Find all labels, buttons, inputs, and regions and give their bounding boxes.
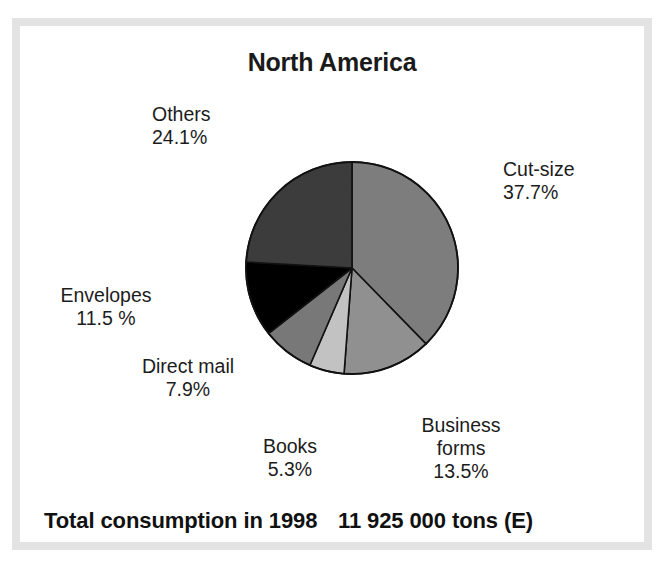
pie-chart-figure: North America Others 24.1% Cut-size 37.7…: [0, 0, 664, 563]
slice-label-books-name: Books: [226, 435, 354, 458]
slice-label-business-forms-percent: 13.5%: [398, 460, 524, 483]
slice-label-cut-size-name: Cut-size: [503, 158, 575, 181]
slice-label-direct-mail-name: Direct mail: [118, 355, 258, 378]
slice-label-business-forms-name: Business: [398, 414, 524, 437]
slice-label-cut-size: Cut-size 37.7%: [503, 158, 575, 204]
slice-label-direct-mail-percent: 7.9%: [118, 378, 258, 401]
slice-label-envelopes: Envelopes 11.5 %: [30, 284, 182, 330]
slice-label-envelopes-percent: 11.5 %: [30, 307, 182, 330]
pie-graphic: [244, 160, 460, 376]
slice-label-others: Others 24.1%: [152, 103, 211, 149]
footer-total-value: 11 925 000 tons (E): [338, 508, 533, 534]
footer-total-label: Total consumption in 1998: [44, 508, 317, 534]
slice-label-cut-size-percent: 37.7%: [503, 181, 575, 204]
slice-label-business-forms: Business forms 13.5%: [398, 414, 524, 482]
pie-slice-others: [246, 162, 352, 268]
slice-label-business-forms-name2: forms: [398, 437, 524, 460]
pie-svg: [244, 160, 460, 376]
slice-label-books: Books 5.3%: [226, 435, 354, 481]
chart-title: North America: [20, 48, 644, 77]
slice-label-others-name: Others: [152, 103, 211, 126]
slice-label-books-percent: 5.3%: [226, 458, 354, 481]
pie-slice-group: [246, 162, 458, 374]
chart-footer: Total consumption in 1998 11 925 000 ton…: [20, 508, 644, 542]
slice-label-others-percent: 24.1%: [152, 126, 211, 149]
slice-label-direct-mail: Direct mail 7.9%: [118, 355, 258, 401]
slice-label-envelopes-name: Envelopes: [30, 284, 182, 307]
